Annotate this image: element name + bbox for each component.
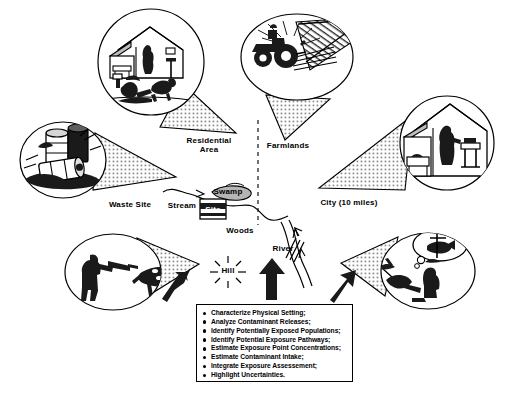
bullet-icon	[203, 320, 207, 324]
task-list-item-label: Identify Potentially Exposed Populations…	[211, 327, 341, 334]
exposure-assessment-task-box: Characterize Physical Setting;Analyze Co…	[196, 304, 353, 382]
cone-farmland	[266, 95, 330, 140]
task-list-item: Identify Potential Exposure Pathways;	[202, 336, 348, 345]
task-list-item: Analyze Contaminant Releases;	[202, 318, 348, 327]
task-list-item: Estimate Exposure Point Concentrations;	[202, 344, 348, 353]
task-list-item-label: Estimate Contaminant Intake;	[211, 353, 304, 360]
task-list-item: Identify Potentially Exposed Populations…	[202, 327, 348, 336]
map-label-waste-site: Waste Site	[104, 201, 156, 210]
exposure-assessment-figure: Residential Area Farmlands Waste Site St…	[0, 0, 507, 405]
bullet-icon	[203, 347, 207, 351]
bullet-icon	[203, 338, 207, 342]
task-list-item: Characterize Physical Setting;	[202, 309, 348, 318]
task-list-item: Integrate Exposure Assessement;	[202, 362, 348, 371]
map-label-farmlands: Farmlands	[260, 142, 316, 151]
map-label-woods: Woods	[218, 227, 262, 236]
terrain-contour	[226, 205, 288, 220]
map-label-hill: Hill	[216, 267, 240, 276]
map-label-city: City (10 miles)	[314, 199, 384, 208]
map-label-stream: Stream	[160, 202, 204, 211]
task-list-item-label: Identify Potential Exposure Pathways;	[211, 336, 330, 343]
task-list-item-label: Highlight Uncertainties.	[211, 371, 285, 378]
bullet-icon	[203, 356, 207, 360]
arrow-center-up	[259, 258, 285, 300]
bullet-icon	[203, 329, 207, 333]
task-list-item-label: Analyze Contaminant Releases;	[211, 318, 311, 325]
cone-city	[319, 115, 413, 190]
task-list: Characterize Physical Setting;Analyze Co…	[202, 309, 348, 380]
map-label-residential-area: Residential Area	[180, 137, 238, 155]
map-label-river: River	[265, 245, 301, 254]
task-list-item: Highlight Uncertainties.	[202, 371, 348, 380]
task-list-item-label: Characterize Physical Setting;	[211, 309, 305, 316]
task-list-item-label: Integrate Exposure Assessement;	[211, 362, 317, 369]
task-list-item: Estimate Contaminant Intake;	[202, 353, 348, 362]
arrow-right-up	[330, 270, 356, 303]
bullet-icon	[203, 312, 207, 316]
bullet-icon	[203, 374, 207, 378]
task-list-item-label: Estimate Exposure Point Concentrations;	[211, 344, 341, 351]
map-label-site: Site	[201, 206, 225, 215]
map-label-swamp: Swamp	[206, 188, 250, 197]
bullet-icon	[203, 365, 207, 369]
